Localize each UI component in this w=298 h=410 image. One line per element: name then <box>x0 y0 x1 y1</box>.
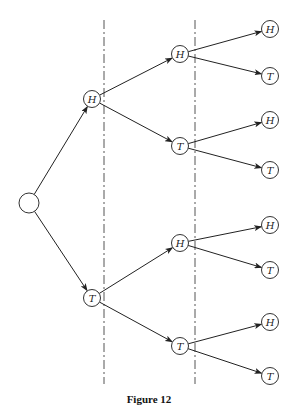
figure-caption: Figure 12 <box>0 393 298 405</box>
node-t: T <box>84 290 101 307</box>
node-label: H <box>175 238 185 249</box>
node-ht: T <box>172 138 189 155</box>
node-label: H <box>265 317 275 328</box>
node-th: H <box>172 235 189 252</box>
node-label: H <box>265 220 275 231</box>
edge-root-to-h <box>34 107 87 195</box>
edge-ht-to-htt <box>188 148 261 167</box>
root-node <box>19 193 39 213</box>
node-ttt: T <box>262 368 279 385</box>
edge-tt-to-tth <box>188 324 261 343</box>
edge-tt-to-ttt <box>188 349 261 373</box>
node-tt: T <box>172 338 189 355</box>
edge-th-to-thh <box>188 227 261 242</box>
node-hhh: H <box>262 21 279 38</box>
node-hh: H <box>172 46 189 63</box>
edge-root-to-t <box>35 211 87 290</box>
node-circle <box>19 193 39 213</box>
node-htt: T <box>262 162 279 179</box>
node-hth: H <box>262 112 279 129</box>
node-label: H <box>265 115 275 126</box>
node-h: H <box>84 91 101 108</box>
node-thh: H <box>262 217 279 234</box>
node-tth: H <box>262 314 279 331</box>
edges-group <box>34 31 261 373</box>
edge-h-to-hh <box>100 58 172 95</box>
edge-ht-to-hth <box>188 122 261 143</box>
edge-h-to-ht <box>99 103 172 142</box>
edge-t-to-th <box>99 248 172 294</box>
edge-th-to-tht <box>188 245 261 267</box>
node-hht: T <box>262 68 279 85</box>
edge-hh-to-hhh <box>188 31 261 51</box>
node-label: H <box>87 94 97 105</box>
edge-t-to-tt <box>99 302 172 342</box>
node-label: H <box>265 24 275 35</box>
edge-hh-to-hht <box>188 56 261 74</box>
node-label: H <box>175 49 185 60</box>
node-tht: T <box>262 262 279 279</box>
coin-toss-tree-diagram: HTHTHTHTHTHTHT <box>0 0 298 410</box>
